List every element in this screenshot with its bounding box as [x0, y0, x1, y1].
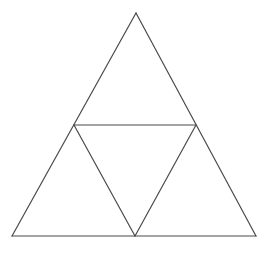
region-center-inverted-triangle [74, 125, 196, 236]
midline-left-diagonal [74, 125, 135, 236]
region-left-triangle [12, 125, 135, 236]
midline-right-diagonal [135, 125, 196, 236]
figure-canvas [0, 0, 273, 259]
region-right-triangle [135, 125, 256, 236]
triangle-diagram-svg [0, 0, 273, 259]
region-top-triangle [74, 13, 196, 125]
